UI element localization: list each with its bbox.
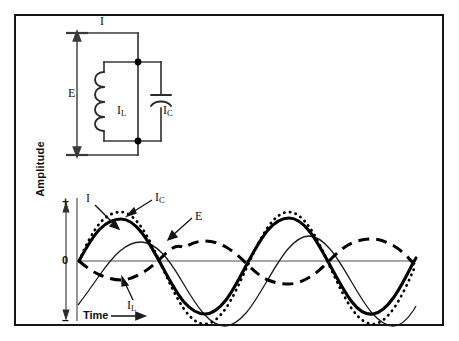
callout-label-inductor-current: IL [127,299,136,313]
circuit-label-inductor-current: IL [117,104,126,118]
circuit-label-source-voltage: E [68,87,75,99]
callout-label-inductor-current-sub: L [131,303,136,313]
callout-label-applied-voltage: E [195,210,202,222]
circuit-and-waveform-canvas [0,0,459,341]
circuit-label-capacitor-current: IC [163,104,173,118]
callout-label-capacitor-current-sub: C [159,195,165,205]
circuit-label-inductor-current-sub: L [121,108,126,118]
node-dot-top [135,59,142,66]
y-axis-label-amplitude: Amplitude [34,123,52,215]
circuit-diagram [70,33,161,155]
circuit-label-capacitor-current-sub: C [167,108,173,118]
y-tick-plus: + [62,196,69,208]
time-axis-arrow [111,312,145,319]
callout-label-capacitor-current: IC [155,191,165,205]
figure-stage: I E IL IC Amplitude + 0 – Time I IC E IL [0,0,459,341]
x-axis-label-time: Time [83,310,108,321]
y-tick-zero: 0 [62,255,68,266]
inductor-coil-icon [95,72,104,131]
callout-label-total-current: I [86,192,90,204]
callout-leader-lines [95,200,192,300]
circuit-label-total-current: I [100,15,104,27]
node-dot-bottom [135,138,142,145]
y-tick-minus: – [62,314,69,326]
